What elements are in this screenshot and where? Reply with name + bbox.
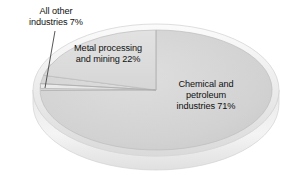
pie-chart-figure: All other industries 7% Metal processing… <box>0 0 302 176</box>
slice-label-metal-processing-and-mining: Metal processing and mining 22% <box>58 43 158 65</box>
slice-label-all-other-industries: All other industries 7% <box>8 6 104 28</box>
slice-boundary-lower-left <box>41 90 156 91</box>
slice-label-chemical-and-petroleum: Chemical and petroleum industries 71% <box>156 79 256 113</box>
